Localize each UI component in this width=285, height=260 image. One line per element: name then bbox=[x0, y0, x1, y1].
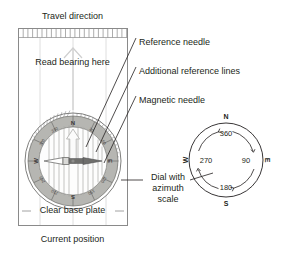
label-travel-direction: Travel direction bbox=[0, 11, 145, 22]
azimuth-cardinal-s: S bbox=[224, 200, 229, 207]
compass-diagram-figure: N E S W 30 60 120 150 210 240 300 330 bbox=[0, 0, 285, 260]
label-magnetic-needle: Magnetic needle bbox=[139, 95, 205, 106]
baseplate-ruler bbox=[19, 29, 127, 38]
label-reference-needle: Reference needle bbox=[139, 37, 210, 48]
label-current-position: Current position bbox=[0, 234, 145, 245]
dial-azimuth-line3: scale bbox=[157, 194, 178, 204]
dial-cardinal-e: E bbox=[106, 159, 112, 163]
dial-cardinal-n: N bbox=[71, 120, 75, 126]
azimuth-degree-south: 180 bbox=[220, 183, 233, 192]
label-clear-base-plate: Clear base plate bbox=[0, 205, 145, 216]
azimuth-degree-west: 270 bbox=[200, 156, 213, 165]
dial-cardinal-s: S bbox=[71, 194, 75, 200]
compass-housing: N E S W 30 60 120 150 210 240 300 330 bbox=[25, 111, 121, 209]
dial-cardinal-w: W bbox=[34, 158, 40, 164]
label-read-bearing-here: Read bearing here bbox=[0, 57, 145, 68]
azimuth-cardinal-e: E bbox=[264, 158, 271, 163]
azimuth-degree-east: 90 bbox=[242, 156, 250, 165]
azimuth-cardinal-n: N bbox=[223, 113, 228, 120]
azimuth-cardinal-w: W bbox=[182, 156, 189, 163]
dial-azimuth-line2: azimuth bbox=[152, 183, 184, 193]
azimuth-degree-north: 360 bbox=[220, 129, 233, 138]
label-dial-with-azimuth-scale: Dial with azimuth scale bbox=[146, 172, 190, 205]
dial-azimuth-line1: Dial with bbox=[151, 172, 185, 182]
azimuth-scale-diagram: 360 90 180 270 N E S W bbox=[182, 113, 271, 207]
label-additional-reference-lines: Additional reference lines bbox=[139, 66, 240, 77]
leader-reference-needle bbox=[86, 38, 136, 147]
